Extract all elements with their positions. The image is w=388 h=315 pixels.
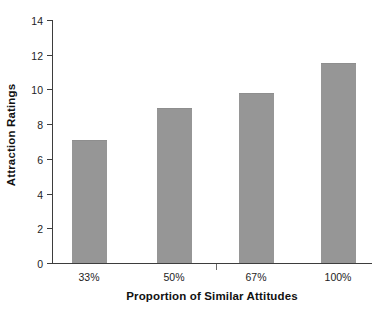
- y-tick-label-2: 2: [37, 223, 43, 234]
- bar-50-percent[interactable]: [157, 108, 192, 263]
- x-axis-title: Proportion of Similar Attitudes: [52, 290, 372, 302]
- x-tick-label-100: 100%: [303, 272, 373, 283]
- bar-100-percent[interactable]: [321, 63, 356, 263]
- x-tick-label-67: 67%: [221, 272, 291, 283]
- y-tick-0: 0: [47, 263, 52, 264]
- bar-chart-figure: Attraction Ratings 0 2 4 6 8 10 12 14: [0, 0, 388, 315]
- x-axis-line: [51, 263, 372, 264]
- y-tick-label-14: 14: [31, 15, 43, 26]
- y-tick-label-0: 0: [37, 258, 43, 269]
- x-tick-label-33: 33%: [54, 272, 124, 283]
- y-tick-label-8: 8: [37, 119, 43, 130]
- y-tick-10: 10: [47, 89, 52, 90]
- x-tick-label-50: 50%: [139, 272, 209, 283]
- y-tick-label-12: 12: [31, 50, 43, 61]
- y-tick-6: 6: [47, 159, 52, 160]
- y-tick-label-10: 10: [31, 84, 43, 95]
- plot-area: 0 2 4 6 8 10 12 14 33% 50% 6: [52, 20, 372, 263]
- bar-67-percent[interactable]: [239, 93, 274, 263]
- y-tick-12: 12: [47, 55, 52, 56]
- y-tick-4: 4: [47, 194, 52, 195]
- y-tick-14: 14: [47, 20, 52, 21]
- y-axis-title: Attraction Ratings: [0, 0, 22, 270]
- bar-33-percent[interactable]: [72, 140, 107, 263]
- y-tick-8: 8: [47, 124, 52, 125]
- x-axis-mid-tick: [216, 264, 217, 270]
- y-tick-2: 2: [47, 228, 52, 229]
- y-axis-title-label: Attraction Ratings: [5, 84, 17, 186]
- y-tick-label-4: 4: [37, 189, 43, 200]
- y-axis-line: [52, 20, 53, 264]
- y-tick-label-6: 6: [37, 154, 43, 165]
